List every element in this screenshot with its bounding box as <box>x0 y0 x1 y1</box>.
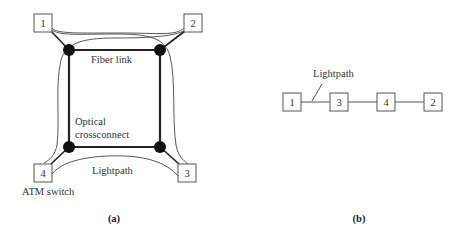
lightpath-label-b: Lightpath <box>313 68 355 79</box>
optical-label-line2: crossconnect <box>75 129 129 140</box>
oxc-node-bottom-right <box>154 141 166 153</box>
figure-b: 1 3 4 2 Lightpath (b) <box>283 68 442 225</box>
caption-a: (a) <box>108 213 121 225</box>
chain-node-4-label: 4 <box>383 97 389 108</box>
atm-switch-label: ATM switch <box>22 186 75 197</box>
switch-1-label: 1 <box>40 18 45 29</box>
switch-2-label: 2 <box>190 18 195 29</box>
switch-2: 2 <box>184 14 202 32</box>
chain-node-1: 1 <box>283 93 301 111</box>
switch-4-label: 4 <box>40 168 46 179</box>
chain-node-3: 3 <box>330 93 348 111</box>
switch-1: 1 <box>34 14 52 32</box>
switch-3-label: 3 <box>184 168 189 179</box>
chain-node-2-label: 2 <box>430 97 435 108</box>
optical-label-line1: Optical <box>75 116 106 127</box>
lightpath-label-a: Lightpath <box>92 165 134 176</box>
lightpath-network-diagram: 1 2 3 4 Fiber link Optical crossconnect … <box>0 0 464 235</box>
lightpath-1-2 <box>52 28 184 34</box>
switch-3: 3 <box>178 164 196 182</box>
switch-4: 4 <box>34 164 52 182</box>
chain-node-2: 2 <box>424 93 442 111</box>
oxc-node-bottom-left <box>63 141 75 153</box>
lightpath-leader-line <box>312 84 322 101</box>
oxc-node-top-left <box>63 44 75 56</box>
figure-a: 1 2 3 4 Fiber link Optical crossconnect … <box>22 14 202 225</box>
oxc-node-top-right <box>154 44 166 56</box>
fiber-link-label: Fiber link <box>91 54 133 65</box>
chain-node-3-label: 3 <box>336 97 341 108</box>
chain-node-4: 4 <box>377 93 395 111</box>
caption-b: (b) <box>353 213 366 225</box>
chain-node-1-label: 1 <box>289 97 294 108</box>
